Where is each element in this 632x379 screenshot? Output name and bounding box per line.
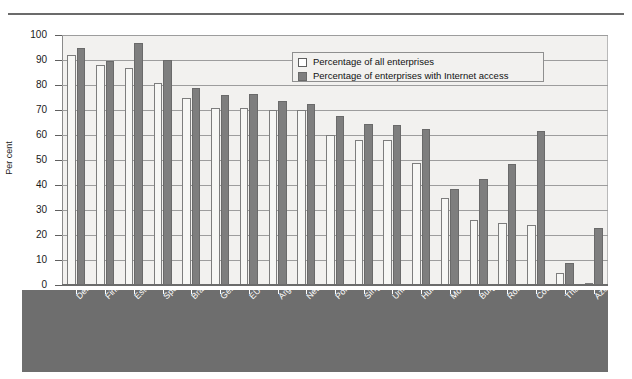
bar	[307, 104, 316, 285]
x-tick-mark	[594, 290, 595, 294]
bar	[240, 108, 249, 286]
bar	[67, 55, 76, 285]
y-axis-title-text: Per cent	[4, 118, 14, 198]
y-tick-label: 90	[13, 55, 47, 65]
bar	[211, 108, 220, 286]
x-tick-mark	[134, 290, 135, 294]
x-tick-mark	[191, 290, 192, 294]
bar	[450, 189, 459, 285]
bar	[412, 163, 421, 286]
gridline	[62, 35, 608, 36]
legend-item: Percentage of all enterprises	[298, 56, 538, 68]
bar	[297, 110, 306, 285]
bar	[527, 225, 536, 285]
x-tick-mark	[392, 290, 393, 294]
x-tick-mark	[364, 290, 365, 294]
x-axis-category-label: Poland	[333, 290, 359, 301]
bar	[269, 110, 278, 285]
chart-legend: Percentage of all enterprises Percentage…	[292, 52, 544, 82]
x-axis-category-label: Estonia	[132, 290, 160, 301]
y-tick-label: 30	[13, 205, 47, 215]
x-tick-mark	[507, 290, 508, 294]
x-tick-mark	[220, 290, 221, 294]
x-tick-mark	[335, 290, 336, 294]
x-tick-mark	[479, 290, 480, 294]
y-tick-mark	[55, 235, 62, 236]
y-tick-mark	[55, 185, 62, 186]
y-tick-mark	[55, 60, 62, 61]
x-axis-category-label: Finland	[103, 290, 130, 301]
y-tick-label: 60	[13, 130, 47, 140]
y-axis-title: Per cent	[2, 120, 16, 200]
y-tick-mark	[55, 285, 62, 286]
y-tick-label: 40	[13, 180, 47, 190]
bar	[134, 43, 143, 286]
legend-label: Percentage of all enterprises	[313, 57, 434, 67]
x-tick-mark	[249, 290, 250, 294]
bar	[498, 223, 507, 286]
bar	[96, 65, 105, 285]
y-tick-mark	[55, 160, 62, 161]
legend-swatch-internet-access	[298, 72, 307, 81]
bar	[508, 164, 517, 285]
y-tick-label: 80	[13, 80, 47, 90]
bar	[221, 95, 230, 285]
x-axis-category-label: Costa Rica (2) (3)	[534, 290, 590, 301]
gridline	[62, 110, 608, 111]
bar	[163, 60, 172, 285]
x-tick-mark	[76, 290, 77, 294]
y-tick-mark	[55, 35, 62, 36]
bar	[125, 68, 134, 286]
bar	[594, 228, 603, 286]
y-tick-label: 70	[13, 105, 47, 115]
bar	[355, 140, 364, 285]
bar	[326, 135, 335, 285]
bar	[192, 88, 201, 286]
x-tick-mark	[306, 290, 307, 294]
y-tick-mark	[55, 135, 62, 136]
y-tick-mark	[55, 210, 62, 211]
x-axis-category-label: Morocco	[448, 290, 479, 301]
bar	[278, 101, 287, 285]
bar	[364, 124, 373, 285]
y-tick-label: 20	[13, 230, 47, 240]
gridline	[62, 85, 608, 86]
x-axis-category-label: Brazil	[189, 290, 212, 301]
bar	[383, 140, 392, 285]
y-tick-mark	[55, 110, 62, 111]
bar	[393, 125, 402, 285]
bar	[249, 94, 258, 285]
bar	[106, 61, 115, 285]
x-tick-mark	[421, 290, 422, 294]
legend-item: Percentage of enterprises with Internet …	[298, 70, 538, 82]
y-tick-label: 50	[13, 155, 47, 165]
bar	[77, 48, 86, 286]
bar	[422, 129, 431, 285]
y-tick-mark	[55, 85, 62, 86]
bar	[154, 83, 163, 286]
x-axis-category-label: Germany	[218, 290, 251, 301]
category-label-band: DenmarkFinlandEstoniaSpainBrazilGermanyE…	[22, 290, 608, 372]
x-tick-mark	[536, 290, 537, 294]
y-tick-label: 100	[13, 30, 47, 40]
x-axis-line	[62, 284, 608, 286]
bar	[479, 179, 488, 285]
bar	[441, 198, 450, 286]
x-axis-category-label: Spain	[161, 290, 184, 301]
bar	[565, 263, 574, 286]
x-axis-category-label: Hungary	[419, 290, 450, 301]
bar	[182, 98, 191, 286]
bar	[470, 220, 479, 285]
legend-label: Percentage of enterprises with Internet …	[313, 71, 508, 81]
bar	[537, 131, 546, 285]
x-tick-mark	[163, 290, 164, 294]
y-tick-mark	[55, 260, 62, 261]
y-tick-label: 10	[13, 255, 47, 265]
y-tick-label: 0	[13, 280, 47, 290]
legend-swatch-all-enterprises	[298, 58, 307, 67]
bar	[336, 116, 345, 285]
x-tick-mark	[565, 290, 566, 294]
x-tick-mark	[278, 290, 279, 294]
chart-figure: 0102030405060708090100 Per cent Percenta…	[0, 0, 632, 379]
top-rule	[8, 13, 624, 15]
